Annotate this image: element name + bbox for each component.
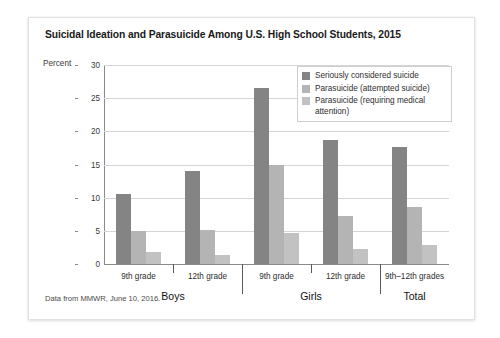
chart-legend: Seriously considered suicideParasuicide … bbox=[297, 66, 452, 122]
bar bbox=[284, 233, 299, 264]
y-tick-mark-0 bbox=[75, 264, 78, 265]
source-note: Data from MMWR, June 10, 2016. bbox=[45, 294, 160, 303]
y-tick-label-0: 0 bbox=[80, 260, 100, 269]
y-tick-mark-30 bbox=[75, 65, 78, 66]
y-tick-label-20: 20 bbox=[80, 127, 100, 136]
legend-item: Parasuicide (attempted suicide) bbox=[302, 84, 446, 95]
y-tick-mark-20 bbox=[75, 131, 78, 132]
bar bbox=[323, 140, 338, 264]
legend-swatch-icon bbox=[302, 72, 310, 80]
legend-swatch-icon bbox=[302, 97, 310, 105]
x-subgroup-separator bbox=[173, 264, 174, 273]
x-subgroup-separator bbox=[311, 264, 312, 273]
x-subgroup-label: 9th–12th grades bbox=[380, 272, 449, 281]
x-subgroup-label: 9th grade bbox=[242, 272, 311, 281]
legend-label: Seriously considered suicide bbox=[315, 71, 419, 82]
legend-label: Parasuicide (requiring medical attention… bbox=[315, 96, 446, 117]
x-group-label: Total bbox=[355, 290, 475, 302]
y-tick-mark-25 bbox=[75, 98, 78, 99]
y-tick-mark-15 bbox=[75, 165, 78, 166]
bar bbox=[407, 207, 422, 264]
bar bbox=[200, 230, 215, 264]
legend-item: Parasuicide (requiring medical attention… bbox=[302, 96, 446, 117]
bar bbox=[254, 88, 269, 264]
y-tick-mark-10 bbox=[75, 198, 78, 199]
bar bbox=[116, 194, 131, 264]
y-tick-label-15: 15 bbox=[80, 160, 100, 169]
y-tick-label-30: 30 bbox=[80, 61, 100, 70]
x-subgroup-label: 12th grade bbox=[173, 272, 242, 281]
y-tick-label-25: 25 bbox=[80, 94, 100, 103]
bar bbox=[185, 171, 200, 264]
bar bbox=[392, 147, 407, 264]
x-axis-labels: 9th grade12th gradeBoys9th grade12th gra… bbox=[104, 264, 450, 314]
y-tick-mark-5 bbox=[75, 231, 78, 232]
chart-title: Suicidal Ideation and Parasuicide Among … bbox=[45, 29, 401, 40]
y-tick-label-5: 5 bbox=[80, 226, 100, 235]
x-group-label: Girls bbox=[251, 290, 371, 302]
bar bbox=[353, 249, 368, 264]
bar bbox=[146, 252, 161, 264]
legend-label: Parasuicide (attempted suicide) bbox=[315, 84, 430, 95]
bar bbox=[215, 255, 230, 264]
y-axis-unit-label: Percent bbox=[43, 59, 71, 68]
bar bbox=[269, 165, 284, 265]
legend-swatch-icon bbox=[302, 85, 310, 93]
y-axis-tick-labels: 051015202530 bbox=[78, 65, 100, 264]
x-subgroup-label: 12th grade bbox=[311, 272, 380, 281]
bar bbox=[131, 231, 146, 264]
y-tick-label-10: 10 bbox=[80, 193, 100, 202]
figure-card: Suicidal Ideation and Parasuicide Among … bbox=[28, 17, 475, 320]
x-subgroup-label: 9th grade bbox=[104, 272, 173, 281]
gridline-20 bbox=[104, 131, 449, 132]
bar bbox=[338, 216, 353, 264]
legend-item: Seriously considered suicide bbox=[302, 71, 446, 82]
bar bbox=[422, 245, 437, 264]
